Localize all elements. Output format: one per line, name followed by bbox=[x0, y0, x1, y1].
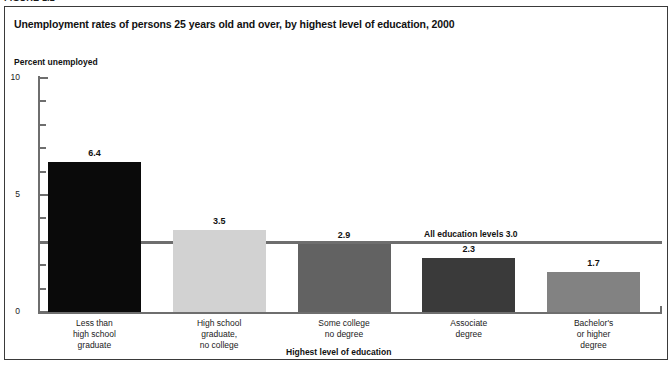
x-axis-title: Highest level of education bbox=[286, 347, 391, 357]
x-axis-category-label: Less than high school graduate bbox=[36, 318, 153, 351]
y-axis-tick bbox=[40, 100, 46, 102]
x-axis-category-label: Bachelor's or higher degree bbox=[535, 318, 652, 351]
y-axis-tick bbox=[40, 194, 48, 196]
bar bbox=[298, 244, 391, 312]
bar-value-label: 2.9 bbox=[298, 230, 391, 240]
y-axis-tick bbox=[40, 264, 46, 266]
bar bbox=[547, 272, 640, 312]
y-axis-tick bbox=[40, 77, 48, 79]
y-axis-title: Percent unemployed bbox=[14, 57, 98, 67]
y-axis-tick-label: 10 bbox=[0, 72, 20, 82]
figure-root: FIGURE 1.2 Unemployment rates of persons… bbox=[0, 0, 672, 366]
x-axis-category-label: Some college no degree bbox=[286, 318, 403, 340]
y-axis-tick bbox=[40, 288, 46, 290]
reference-line-label: All education levels 3.0 bbox=[424, 229, 518, 239]
x-axis-end-tick bbox=[660, 306, 662, 314]
figure-number-label: FIGURE 1.2 bbox=[4, 0, 55, 3]
bar-value-label: 2.3 bbox=[422, 244, 515, 254]
bar bbox=[422, 258, 515, 312]
bar-value-label: 6.4 bbox=[48, 148, 141, 158]
x-axis-category-label: High school graduate, no college bbox=[161, 318, 278, 351]
bar-value-label: 1.7 bbox=[547, 258, 640, 268]
y-axis-tick-label: 5 bbox=[0, 189, 20, 199]
bar bbox=[48, 162, 141, 312]
y-axis-tick bbox=[40, 217, 46, 219]
bar bbox=[173, 230, 266, 312]
y-axis-tick bbox=[40, 147, 46, 149]
chart-title: Unemployment rates of persons 25 years o… bbox=[14, 18, 455, 30]
plot-area: 0510 6.43.52.92.31.7 All education level… bbox=[38, 76, 662, 314]
y-axis-tick bbox=[40, 311, 48, 313]
y-axis-tick bbox=[40, 171, 46, 173]
y-axis-tick-label: 0 bbox=[0, 306, 20, 316]
bar-value-label: 3.5 bbox=[173, 216, 266, 226]
x-axis-category-label: Associate degree bbox=[410, 318, 527, 340]
x-axis-line bbox=[38, 312, 662, 314]
y-axis-tick bbox=[40, 124, 46, 126]
